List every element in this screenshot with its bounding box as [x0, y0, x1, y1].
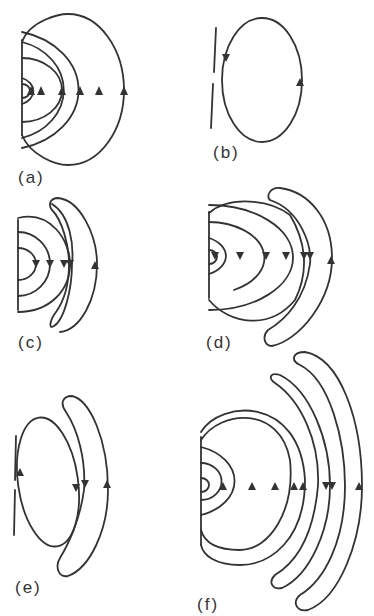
diagram-canvas: (a) (b) (c) (d) (e) (f) [0, 0, 374, 616]
panel-label-b: (b) [213, 143, 240, 163]
panel-label-f: (f) [197, 595, 219, 615]
panel-a-lines [22, 14, 128, 165]
panel-label-d: (d) [206, 333, 233, 353]
panel-label-a: (a) [18, 168, 45, 188]
panel-label-c: (c) [18, 333, 44, 353]
panel-f-lines [201, 352, 363, 610]
panel-c-lines [18, 198, 99, 332]
panel-b-lines [211, 18, 304, 142]
panel-e-lines [9, 396, 111, 576]
field-lines-diagram [0, 0, 374, 616]
panel-label-e: (e) [15, 578, 42, 598]
panel-d-lines [209, 188, 335, 346]
